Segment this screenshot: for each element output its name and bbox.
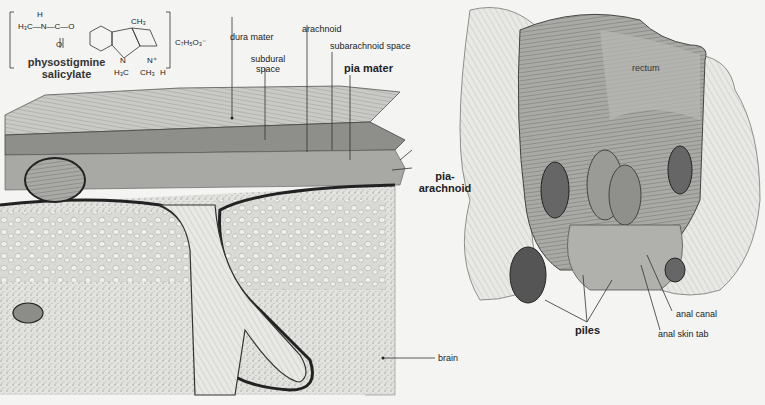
label-pia-arachnoid: pia- arachnoid — [413, 170, 477, 194]
label-subdural-line1: subdural — [248, 54, 288, 64]
label-arachnoid: arachnoid — [302, 24, 342, 34]
label-pia-arachnoid-line2: arachnoid — [413, 182, 477, 194]
chem-left-group: H₃C—N—C—O — [18, 22, 75, 31]
chem-o-atom: O — [56, 40, 62, 49]
chem-h-atom: H — [37, 10, 43, 19]
rectum-illustration — [460, 8, 760, 304]
meninges-illustration — [0, 86, 405, 395]
label-anal-canal: anal canal — [676, 309, 717, 319]
label-rectum: rectum — [632, 63, 660, 73]
label-pia-mater: pia mater — [344, 62, 393, 74]
chem-counter-ion: C₇H₅O₃⁻ — [175, 38, 206, 47]
label-anal-skin-tab: anal skin tab — [658, 329, 709, 339]
chem-name-line2: salicylate — [14, 68, 119, 80]
label-subarachnoid-space: subarachnoid space — [330, 41, 411, 51]
chem-n-ring: N — [120, 56, 126, 65]
chem-ch3-bottom: CH₃ — [140, 68, 155, 77]
label-piles: piles — [575, 324, 600, 336]
label-subdural-space: subdural space — [248, 54, 288, 74]
chem-name: physostigmine salicylate — [14, 56, 119, 80]
chem-h-bottom: H — [160, 68, 166, 77]
label-dura-mater: dura mater — [230, 32, 274, 42]
chem-name-line1: physostigmine — [14, 56, 119, 68]
label-pia-arachnoid-line1: pia- — [413, 170, 477, 182]
chem-ch3-top: CH₃ — [131, 17, 146, 26]
label-subdural-line2: space — [248, 64, 288, 74]
chem-n-plus: N⁺ — [147, 56, 157, 65]
label-brain: brain — [438, 353, 458, 363]
